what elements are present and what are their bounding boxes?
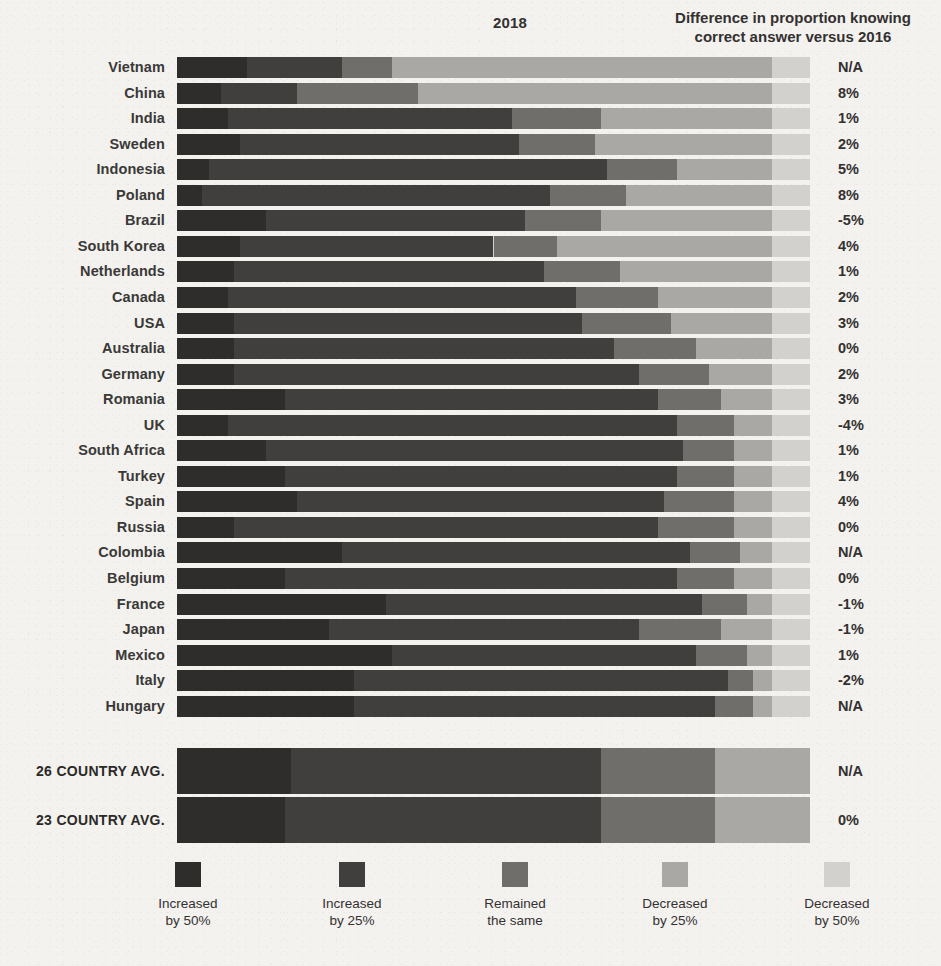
bar-segment-3[interactable]: [494, 236, 557, 257]
bar-segment-5[interactable]: [772, 670, 810, 691]
bar-segment-3[interactable]: [696, 645, 747, 666]
bar-segment-5[interactable]: [772, 57, 810, 78]
bar-segment-2[interactable]: [285, 466, 677, 487]
bar-segment-5[interactable]: [772, 491, 810, 512]
bar-segment-3[interactable]: [512, 108, 601, 129]
bar-segment-5[interactable]: [772, 108, 810, 129]
bar-segment-2[interactable]: [234, 364, 639, 385]
bar-segment-5[interactable]: [772, 440, 810, 461]
bar-segment-4[interactable]: [557, 236, 772, 257]
stacked-bar[interactable]: [177, 670, 810, 691]
bar-segment-5[interactable]: [772, 338, 810, 359]
bar-segment-1[interactable]: [177, 210, 266, 231]
stacked-bar[interactable]: [177, 261, 810, 282]
bar-segment-1[interactable]: [177, 338, 234, 359]
bar-segment-1[interactable]: [177, 287, 228, 308]
bar-segment-3[interactable]: [607, 159, 677, 180]
bar-segment-3[interactable]: [639, 364, 709, 385]
bar-segment-3[interactable]: [582, 313, 671, 334]
bar-segment-3[interactable]: [601, 748, 715, 794]
bar-segment-4[interactable]: [620, 261, 772, 282]
bar-segment-3[interactable]: [677, 466, 734, 487]
bar-segment-1[interactable]: [177, 748, 291, 794]
bar-segment-2[interactable]: [285, 568, 677, 589]
bar-segment-2[interactable]: [234, 313, 582, 334]
legend-item-4[interactable]: Decreasedby 25%: [600, 862, 750, 929]
bar-segment-2[interactable]: [342, 542, 690, 563]
bar-segment-2[interactable]: [247, 57, 342, 78]
bar-segment-4[interactable]: [626, 185, 772, 206]
stacked-bar[interactable]: [177, 568, 810, 589]
stacked-bar[interactable]: [177, 797, 810, 843]
bar-segment-2[interactable]: [285, 389, 658, 410]
stacked-bar[interactable]: [177, 338, 810, 359]
bar-segment-1[interactable]: [177, 466, 285, 487]
stacked-bar[interactable]: [177, 415, 810, 436]
bar-segment-4[interactable]: [677, 159, 772, 180]
legend-item-2[interactable]: Increasedby 25%: [277, 862, 427, 929]
stacked-bar[interactable]: [177, 748, 810, 794]
bar-segment-1[interactable]: [177, 542, 342, 563]
bar-segment-3[interactable]: [728, 670, 753, 691]
bar-segment-1[interactable]: [177, 594, 386, 615]
bar-segment-2[interactable]: [291, 748, 601, 794]
bar-segment-3[interactable]: [658, 389, 721, 410]
bar-segment-3[interactable]: [639, 619, 721, 640]
bar-segment-1[interactable]: [177, 83, 221, 104]
bar-segment-2[interactable]: [240, 134, 519, 155]
bar-segment-5[interactable]: [772, 185, 810, 206]
bar-segment-1[interactable]: [177, 159, 209, 180]
bar-segment-1[interactable]: [177, 619, 329, 640]
bar-segment-4[interactable]: [734, 517, 772, 538]
bar-segment-1[interactable]: [177, 57, 247, 78]
bar-segment-3[interactable]: [715, 696, 753, 717]
bar-segment-3[interactable]: [342, 57, 393, 78]
bar-segment-3[interactable]: [576, 287, 658, 308]
bar-segment-3[interactable]: [677, 568, 734, 589]
bar-segment-2[interactable]: [285, 797, 602, 843]
bar-segment-5[interactable]: [772, 645, 810, 666]
bar-segment-2[interactable]: [240, 236, 493, 257]
bar-segment-1[interactable]: [177, 440, 266, 461]
bar-segment-1[interactable]: [177, 415, 228, 436]
bar-segment-1[interactable]: [177, 261, 234, 282]
bar-segment-3[interactable]: [664, 491, 734, 512]
stacked-bar[interactable]: [177, 287, 810, 308]
stacked-bar[interactable]: [177, 389, 810, 410]
bar-segment-4[interactable]: [753, 670, 772, 691]
stacked-bar[interactable]: [177, 517, 810, 538]
bar-segment-2[interactable]: [202, 185, 550, 206]
bar-segment-2[interactable]: [209, 159, 608, 180]
bar-segment-2[interactable]: [266, 440, 684, 461]
stacked-bar[interactable]: [177, 185, 810, 206]
stacked-bar[interactable]: [177, 210, 810, 231]
bar-segment-4[interactable]: [734, 568, 772, 589]
bar-segment-2[interactable]: [228, 108, 513, 129]
bar-segment-2[interactable]: [234, 261, 544, 282]
legend-item-1[interactable]: Increasedby 50%: [113, 862, 263, 929]
bar-segment-4[interactable]: [734, 415, 772, 436]
legend-item-3[interactable]: Remainedthe same: [440, 862, 590, 929]
bar-segment-1[interactable]: [177, 797, 285, 843]
bar-segment-4[interactable]: [671, 313, 772, 334]
bar-segment-5[interactable]: [772, 210, 810, 231]
bar-segment-2[interactable]: [228, 415, 677, 436]
bar-segment-4[interactable]: [734, 440, 772, 461]
bar-segment-2[interactable]: [266, 210, 526, 231]
bar-segment-1[interactable]: [177, 134, 240, 155]
bar-segment-4[interactable]: [721, 619, 772, 640]
bar-segment-4[interactable]: [392, 57, 772, 78]
bar-segment-5[interactable]: [772, 313, 810, 334]
bar-segment-4[interactable]: [753, 696, 772, 717]
bar-segment-4[interactable]: [601, 108, 772, 129]
bar-segment-1[interactable]: [177, 364, 234, 385]
stacked-bar[interactable]: [177, 159, 810, 180]
bar-segment-2[interactable]: [354, 670, 727, 691]
bar-segment-1[interactable]: [177, 517, 234, 538]
bar-segment-4[interactable]: [721, 389, 772, 410]
stacked-bar[interactable]: [177, 57, 810, 78]
bar-segment-4[interactable]: [715, 797, 810, 843]
bar-segment-5[interactable]: [772, 83, 810, 104]
bar-segment-3[interactable]: [702, 594, 746, 615]
bar-segment-2[interactable]: [297, 491, 664, 512]
